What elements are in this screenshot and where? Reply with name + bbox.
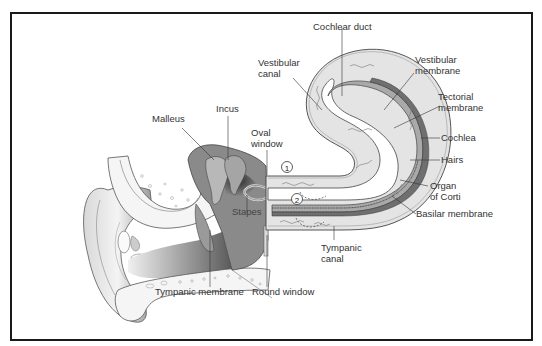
label-stapes: Stapes xyxy=(232,207,262,218)
label-round-window: Round window xyxy=(252,287,314,298)
label-cochlea: Cochlea xyxy=(441,133,476,144)
label-vestibular-canal-line1: Vestibular xyxy=(258,58,300,69)
label-vestibular-membrane-line2: membrane xyxy=(415,66,460,77)
label-tympanic-canal-line1: Tympanic xyxy=(321,243,362,254)
svg-text:1: 1 xyxy=(285,164,290,173)
label-hairs: Hairs xyxy=(441,155,463,166)
label-organ-of-corti-line1: Organ xyxy=(430,181,456,192)
step-marker-2: 2 xyxy=(292,194,303,205)
label-tympanic-membrane: Tympanic membrane xyxy=(155,287,244,298)
label-organ-of-corti-line2: of Corti xyxy=(430,192,461,203)
label-tympanic-canal-line2: canal xyxy=(321,254,344,265)
label-incus: Incus xyxy=(216,104,239,115)
label-oval-window-line1: Oval xyxy=(251,128,271,139)
label-cochlear-duct: Cochlear duct xyxy=(313,22,372,33)
label-vestibular-membrane-line1: Vestibular xyxy=(415,55,457,66)
label-malleus: Malleus xyxy=(152,114,185,125)
label-oval-window-line2: window xyxy=(251,139,283,150)
label-tectorial-membrane-line2: membrane xyxy=(438,103,483,114)
label-basilar-membrane: Basilar membrane xyxy=(416,209,493,220)
step-marker-1: 1 xyxy=(282,162,293,173)
label-vestibular-canal-line2: canal xyxy=(258,69,281,80)
label-tectorial-membrane-line1: Tectorial xyxy=(438,92,473,103)
svg-text:2: 2 xyxy=(295,196,300,205)
